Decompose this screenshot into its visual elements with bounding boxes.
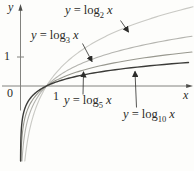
- label-arg: x: [107, 3, 113, 17]
- log5-curve-label: y = log5x: [64, 94, 112, 107]
- label-arg: x: [169, 107, 175, 121]
- x-axis-tick-label-1: 1: [53, 90, 59, 102]
- label-eq: = log: [37, 28, 66, 42]
- label-eq: = log: [71, 3, 100, 17]
- y-axis-tick-label-1: 1: [4, 50, 10, 62]
- label-base: 10: [158, 114, 167, 124]
- label-base: 2: [100, 10, 104, 20]
- label-eq: = log: [129, 107, 158, 121]
- x-axis-label: x: [183, 89, 188, 101]
- y-axis-label: y: [8, 1, 13, 13]
- log3-curve-label: y = log3x: [31, 29, 79, 42]
- log10-label-arrow: [135, 72, 137, 108]
- log5-label-arrow: [83, 72, 84, 95]
- origin-label: 0: [7, 87, 13, 99]
- log10-curve-label: y = log10x: [123, 108, 175, 121]
- label-base: 3: [66, 35, 70, 45]
- log2-label-arrow: [121, 21, 129, 33]
- label-eq: = log: [70, 93, 99, 107]
- plot-canvas: [0, 0, 194, 171]
- y-axis-arrowhead: [18, 4, 22, 11]
- log-functions-figure: y = log2x y = log3x y = log5x y = log10x…: [0, 0, 194, 171]
- log2-curve-label: y = log2x: [65, 4, 113, 17]
- label-arg: x: [106, 93, 112, 107]
- label-base: 5: [99, 100, 103, 110]
- label-arg: x: [73, 28, 79, 42]
